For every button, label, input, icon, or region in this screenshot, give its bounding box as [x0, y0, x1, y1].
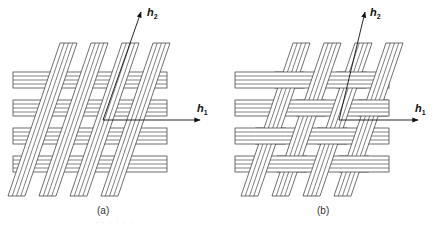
footer-faint-text: · · · · · ·	[95, 218, 133, 227]
h2-label-a: h2	[147, 6, 158, 20]
weave-crossing	[339, 156, 369, 172]
weave-crossing	[296, 100, 326, 116]
weave-crossing	[317, 128, 347, 144]
weave-crossing	[358, 100, 388, 116]
h1-label-a: h1	[197, 102, 208, 116]
weave-crossing	[277, 156, 307, 172]
h1-label-b: h1	[415, 102, 426, 116]
weave-crossing	[255, 128, 285, 144]
weave-crossing	[336, 72, 366, 88]
panel-b	[235, 12, 418, 196]
panel-a	[8, 12, 200, 196]
caption-a: (a)	[97, 205, 109, 216]
woven-lattice-diagram	[0, 0, 435, 228]
caption-b: (b)	[317, 205, 329, 216]
h2-label-b: h2	[370, 6, 381, 20]
weave-crossing	[274, 72, 304, 88]
